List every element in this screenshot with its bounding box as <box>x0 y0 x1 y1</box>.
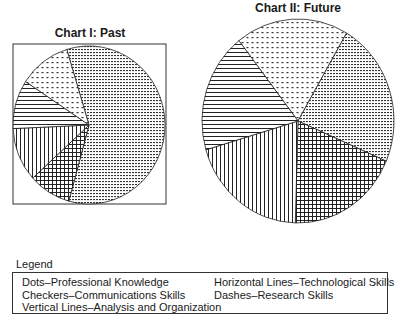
chart-future-pie <box>202 19 394 223</box>
legend-item-dots: Dots–Professional Knowledge <box>22 276 221 289</box>
legend-item-vertical-lines: Vertical Lines–Analysis and Organization <box>22 301 221 314</box>
legend-item-horizontal-lines: Horizontal Lines–Technological Skills <box>214 276 394 289</box>
pie-charts <box>0 0 406 250</box>
legend-title: Legend <box>16 258 53 270</box>
chart-past-pie <box>13 46 165 204</box>
legend-item-checkers: Checkers–Communications Skills <box>22 289 221 302</box>
legend-item-dashes: Dashes–Research Skills <box>214 289 394 302</box>
legend-box: Dots–Professional Knowledge Checkers–Com… <box>12 272 388 314</box>
